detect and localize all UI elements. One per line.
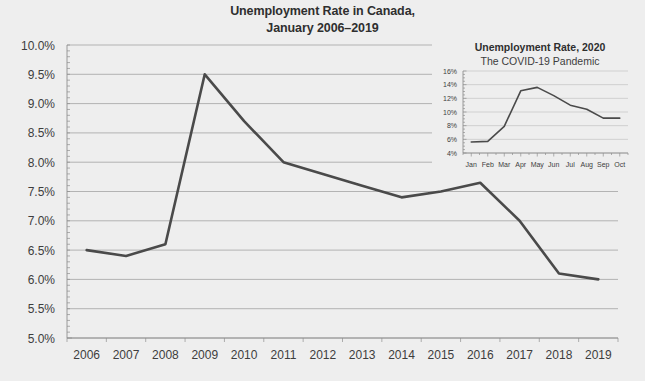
inset-background [432, 37, 642, 170]
y-axis-tick-label: 8.0% [28, 156, 56, 170]
y-axis-tick-label: 5.5% [28, 302, 56, 316]
inset-x-axis-tick-label: May [531, 161, 545, 169]
inset-y-axis-tick-label: 16% [443, 68, 457, 75]
inset-x-axis-tick-label: Oct [614, 161, 625, 168]
inset-x-axis-tick-label: Jan [466, 161, 477, 168]
x-axis-tick-label: 2015 [428, 348, 455, 362]
y-axis-tick-label: 6.0% [28, 273, 56, 287]
inset-y-axis-tick-label: 14% [443, 81, 457, 88]
inset-x-axis-tick-label: Jun [548, 161, 559, 168]
main-x-axis-labels: 2006200720082009201020112012201320142015… [73, 348, 612, 362]
x-axis-tick-label: 2011 [271, 348, 297, 362]
inset-y-axis-tick-label: 6% [447, 136, 457, 143]
inset-chart: 16%14%12%10%8%6%4% JanFebMarAprMayJunJul… [432, 37, 642, 170]
x-axis-tick-label: 2006 [73, 348, 100, 362]
chart-figure: Unemployment Rate in Canada, January 200… [0, 0, 645, 381]
y-axis-tick-label: 5.0% [28, 332, 56, 346]
inset-y-axis-tick-label: 12% [443, 95, 457, 102]
x-axis-tick-label: 2012 [309, 348, 336, 362]
inset-x-axis-tick-label: Sep [597, 161, 610, 169]
x-axis-tick-label: 2019 [585, 348, 612, 362]
x-axis-tick-label: 2014 [388, 348, 415, 362]
x-axis-tick-label: 2009 [191, 348, 218, 362]
x-axis-tick-label: 2018 [546, 348, 573, 362]
y-axis-tick-label: 10.0% [21, 39, 55, 53]
inset-x-axis-tick-label: Mar [498, 161, 511, 168]
x-axis-tick-label: 2008 [152, 348, 179, 362]
inset-x-axis-tick-label: Feb [482, 161, 494, 168]
x-axis-tick-label: 2016 [467, 348, 494, 362]
y-axis-tick-label: 7.0% [28, 214, 56, 228]
x-axis-tick-label: 2013 [349, 348, 376, 362]
inset-y-axis-tick-label: 4% [447, 150, 457, 157]
inset-y-axis-tick-label: 8% [447, 122, 457, 129]
y-axis-tick-label: 6.5% [28, 244, 56, 258]
chart-canvas: 10.0%9.5%9.0%8.5%8.0%7.5%7.0%6.5%6.0%5.5… [0, 0, 645, 381]
y-axis-tick-label: 9.5% [28, 68, 56, 82]
inset-x-axis-tick-label: Aug [581, 161, 594, 169]
x-axis-tick-label: 2017 [506, 348, 533, 362]
inset-y-axis-tick-label: 10% [443, 109, 457, 116]
y-axis-tick-label: 8.5% [28, 126, 56, 140]
y-axis-tick-label: 7.5% [28, 185, 56, 199]
x-axis-tick-label: 2010 [231, 348, 258, 362]
y-axis-tick-label: 9.0% [28, 97, 56, 111]
x-axis-tick-label: 2007 [113, 348, 140, 362]
inset-x-axis-tick-label: Apr [515, 161, 527, 169]
inset-x-axis-tick-label: Jul [566, 161, 575, 168]
main-x-axis-ticks [67, 338, 618, 342]
main-y-axis-labels: 10.0%9.5%9.0%8.5%8.0%7.5%7.0%6.5%6.0%5.5… [21, 39, 55, 346]
